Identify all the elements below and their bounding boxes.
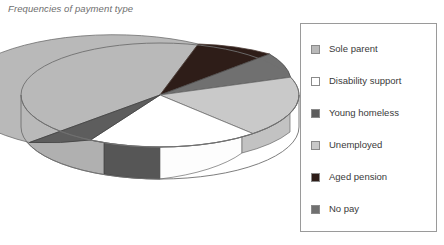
square-swatch-icon <box>311 141 320 150</box>
pie-chart-svg <box>0 18 300 245</box>
legend-item-label: Unemployed <box>329 140 382 150</box>
pie-chart-3d <box>0 18 300 245</box>
square-swatch-icon <box>311 109 320 118</box>
legend-item-no-pay[interactable]: No pay <box>311 193 436 225</box>
page-title: Frequencies of payment type <box>8 3 133 14</box>
square-swatch-icon <box>311 77 320 86</box>
legend-item-aged-pension[interactable]: Aged pension <box>311 161 436 193</box>
legend-item-label: Young homeless <box>329 108 399 118</box>
legend-list: Sole parent Disability support Young hom… <box>301 24 436 231</box>
legend-item-young-homeless[interactable]: Young homeless <box>311 97 436 129</box>
legend-item-disability-support[interactable]: Disability support <box>311 65 436 97</box>
legend-item-label: Disability support <box>329 76 401 86</box>
square-swatch-icon <box>311 45 320 54</box>
legend-item-label: Aged pension <box>329 172 387 182</box>
square-swatch-icon <box>311 173 320 182</box>
chart-page: Frequencies of payment type <box>0 0 444 245</box>
pie-side-young-homeless <box>104 142 160 179</box>
legend-item-sole-parent[interactable]: Sole parent <box>311 33 436 65</box>
legend-item-label: No pay <box>329 204 359 214</box>
legend: Sole parent Disability support Young hom… <box>300 23 437 232</box>
pie-top-face <box>0 35 299 147</box>
legend-item-label: Sole parent <box>329 44 378 54</box>
legend-item-unemployed[interactable]: Unemployed <box>311 129 436 161</box>
square-swatch-icon <box>311 205 320 214</box>
